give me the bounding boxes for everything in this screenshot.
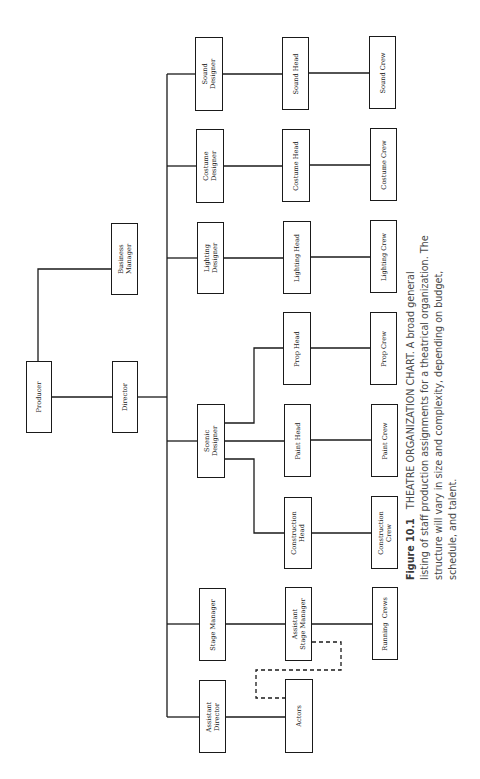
- caption-line-3: structure will vary in size and complexi…: [432, 180, 446, 580]
- node-label: Lighting Head: [293, 233, 301, 281]
- node-lighting-crew: Lighting Crew: [370, 220, 397, 293]
- node-label: Producer: [35, 382, 43, 413]
- node-construction-head: Construction Head: [284, 497, 312, 569]
- node-label: Sound Head: [291, 53, 299, 94]
- node-label: Business Manager: [116, 244, 133, 274]
- node-label: Paint Crew: [380, 422, 388, 459]
- node-label: Actors: [295, 705, 303, 727]
- node-assistant-stage-manager: Assistant Stage Manager: [285, 587, 312, 661]
- node-stage-manager: Stage Manager: [199, 588, 226, 661]
- node-director: Director: [112, 361, 138, 433]
- node-business-manager: Business Manager: [111, 223, 138, 295]
- node-label: Paint Head: [293, 422, 301, 459]
- node-label: Stage Manager: [208, 599, 216, 650]
- node-costume-designer: Costume Designer: [196, 129, 224, 203]
- node-sound-head: Sound Head: [282, 37, 309, 110]
- node-paint-crew: Paint Crew: [371, 404, 398, 477]
- node-label: Costume Crew: [379, 140, 387, 189]
- node-assistant-director: Assistant Director: [199, 680, 226, 753]
- node-costume-crew: Costume Crew: [370, 128, 397, 201]
- node-label: Construction Crew: [376, 511, 393, 554]
- node-label: Sound Designer: [201, 59, 218, 89]
- node-lighting-head: Lighting Head: [283, 221, 311, 294]
- node-costume-head: Costume Head: [282, 129, 310, 202]
- node-sound-designer: Sound Designer: [195, 37, 223, 111]
- node-label: Costume Designer: [202, 151, 219, 181]
- figure-label: Figure 10.1: [405, 518, 416, 580]
- caption-text: A broad general: [405, 271, 416, 348]
- caption-line-1: Figure 10.1 THEATRE ORGANIZATION CHART. …: [404, 180, 418, 580]
- node-label: Lighting Crew: [379, 232, 387, 280]
- node-producer: Producer: [26, 361, 52, 433]
- node-label: Assistant Director: [204, 701, 221, 732]
- node-label: Lighting Designer: [202, 243, 219, 273]
- node-label: Prop Head: [293, 331, 301, 367]
- node-label: Assistant Stage Manager: [290, 598, 307, 649]
- node-label: Scenic Designer: [203, 426, 220, 456]
- caption-line-4: schedule, and talent.: [446, 180, 460, 580]
- node-prop-head: Prop Head: [283, 312, 311, 385]
- figure-title: THEATRE ORGANIZATION CHART.: [405, 351, 416, 509]
- node-scenic-designer: Scenic Designer: [197, 404, 225, 478]
- node-construction-crew: Construction Crew: [371, 496, 398, 569]
- node-running-crews: Running Crews: [372, 587, 398, 660]
- node-label: Prop Crew: [379, 331, 387, 367]
- node-prop-crew: Prop Crew: [370, 312, 397, 385]
- caption-line-2: listing of staff production assignments …: [418, 180, 432, 580]
- node-label: Running Crews: [381, 597, 389, 651]
- node-actors: Actors: [285, 679, 313, 753]
- figure-caption: Figure 10.1 THEATRE ORGANIZATION CHART. …: [404, 180, 460, 580]
- node-lighting-designer: Lighting Designer: [197, 222, 224, 294]
- node-label: Sound Crew: [378, 52, 386, 93]
- node-label: Construction Head: [290, 511, 307, 554]
- theatre-organization-chart: Producer Business Manager Director Sound…: [0, 0, 480, 779]
- node-label: Costume Head: [292, 141, 300, 190]
- node-label: Director: [121, 383, 129, 411]
- node-sound-crew: Sound Crew: [369, 36, 396, 109]
- node-paint-head: Paint Head: [284, 404, 311, 477]
